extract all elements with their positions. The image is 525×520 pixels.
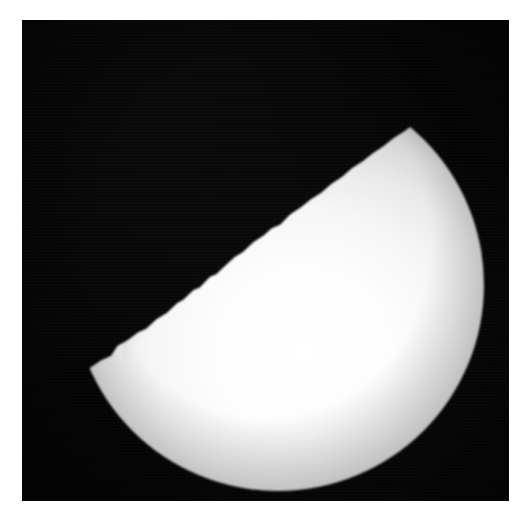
terminator-shading — [123, 139, 509, 501]
figure-alt-text: A black and white photograph showing a b… — [0, 0, 1, 1]
illuminated-disk — [72, 79, 484, 491]
photographic-plate — [22, 20, 509, 501]
lunar-body — [22, 20, 509, 501]
figure-root: A black and white photograph showing a b… — [0, 0, 525, 520]
figure-title: Gibbous phase photograph of the Moon — [0, 0, 1, 1]
